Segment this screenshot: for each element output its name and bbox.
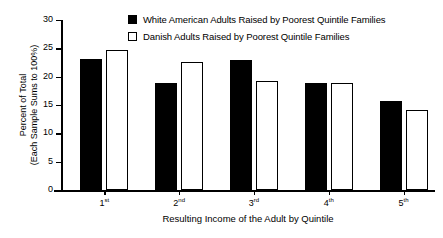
x-tick-label-1st: 1st [100,198,110,209]
y-tick-30: 30 [56,20,61,21]
bar-5th-series1 [380,101,402,190]
y-tick-10: 10 [56,133,61,134]
bar-2nd-series2 [181,62,203,190]
y-axis-line [61,20,63,190]
y-tick-5: 5 [56,162,61,163]
x-tick-label-4th: 4th [324,198,334,209]
bar-3rd-series2 [256,81,278,190]
x-tick-1st [104,190,105,195]
bar-1st-series1 [80,59,102,190]
y-tick-label-25: 25 [43,42,53,53]
x-tick-4th [329,190,330,195]
x-tick-label-2nd: 2nd [173,198,185,209]
x-tick-3rd [254,190,255,195]
y-tick-label-20: 20 [43,71,53,82]
y-tick-label-5: 5 [48,156,53,167]
plot-area: 051015202530 1st2nd3rd4th5th [61,20,435,190]
x-tick-2nd [179,190,180,195]
bar-4th-series2 [331,83,353,190]
y-axis-title-line2: (Each Sample Sums to 100%) [29,45,40,166]
x-tick-label-3rd: 3rd [249,198,259,209]
y-tick-25: 25 [56,48,61,49]
x-tick-5th [404,190,405,195]
y-tick-label-0: 0 [48,184,53,195]
x-tick-label-5th: 5th [399,198,409,209]
y-axis-title-line1: Percent of Total [18,74,29,136]
bar-1st-series2 [106,50,128,190]
y-tick-0: 0 [56,190,61,191]
x-axis-line [54,190,435,192]
y-tick-label-15: 15 [43,99,53,110]
bar-5th-series2 [406,110,428,190]
y-tick-20: 20 [56,77,61,78]
y-tick-15: 15 [56,105,61,106]
bar-4th-series1 [305,83,327,190]
y-axis-title: Percent of Total (Each Sample Sums to 10… [14,20,44,190]
bar-2nd-series1 [155,83,177,190]
bar-chart: White American Adults Raised by Poorest … [0,0,443,238]
x-axis-title: Resulting Income of the Adult by Quintil… [61,213,435,225]
y-tick-label-30: 30 [43,14,53,25]
y-tick-label-10: 10 [43,127,53,138]
bar-3rd-series1 [230,60,252,190]
